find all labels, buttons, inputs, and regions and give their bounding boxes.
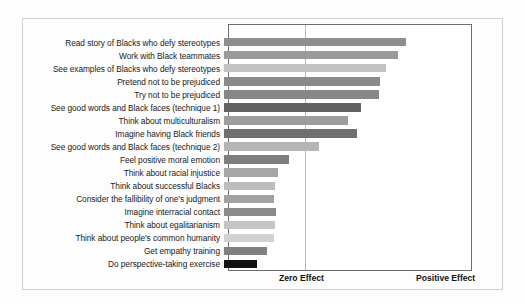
bar-track	[224, 245, 468, 258]
bar-track	[224, 219, 468, 232]
bar	[224, 116, 348, 124]
bar-row: Do perspective-taking exercise	[0, 258, 525, 271]
bar	[224, 234, 274, 242]
bar	[224, 90, 379, 98]
bar-category-label: See good words and Black faces (techniqu…	[0, 142, 224, 152]
bar-category-label: Read story of Blacks who defy stereotype…	[0, 38, 224, 48]
bar-track	[224, 127, 468, 140]
bar	[224, 195, 274, 203]
bar	[224, 247, 267, 255]
bar-row: Get empathy training	[0, 245, 525, 258]
bar	[224, 51, 398, 59]
bar-row: Think about multiculturalism	[0, 114, 525, 127]
bar-row: Try not to be prejudiced	[0, 88, 525, 101]
bar-track	[224, 193, 468, 206]
bar-track	[224, 206, 468, 219]
bar	[224, 77, 380, 85]
bar	[224, 64, 386, 72]
bar-category-label: Work with Black teammates	[0, 51, 224, 61]
bar	[224, 221, 275, 229]
bar-track	[224, 49, 468, 62]
bar-row: Think about successful Blacks	[0, 180, 525, 193]
bar-category-label: Imagine interracial contact	[0, 207, 224, 217]
bar-track	[224, 180, 468, 193]
bar-row: Imagine having Black friends	[0, 127, 525, 140]
bar-row: See good words and Black faces (techniqu…	[0, 101, 525, 114]
bar-category-label: Think about successful Blacks	[0, 181, 224, 191]
bar-category-label: Pretend not to be prejudiced	[0, 77, 224, 87]
bar-category-label: Do perspective-taking exercise	[0, 259, 224, 269]
bar-track	[224, 258, 468, 271]
bar	[224, 155, 289, 163]
bar-track	[224, 36, 468, 49]
bar-row: Read story of Blacks who defy stereotype…	[0, 36, 525, 49]
bar-row: Think about egalitarianism	[0, 219, 525, 232]
bar-row: Pretend not to be prejudiced	[0, 75, 525, 88]
bar	[224, 142, 319, 150]
bar-row: See examples of Blacks who defy stereoty…	[0, 62, 525, 75]
bar-category-label: See examples of Blacks who defy stereoty…	[0, 64, 224, 74]
bar-track	[224, 114, 468, 127]
bar-row: Consider the fallibility of one's judgme…	[0, 193, 525, 206]
axis-tick-label-zero-effect: Zero Effect	[279, 273, 324, 283]
bar-category-label: Think about egalitarianism	[0, 220, 224, 230]
bar-category-label: See good words and Black faces (techniqu…	[0, 103, 224, 113]
bar-row: Imagine interracial contact	[0, 206, 525, 219]
bar-category-label: Think about people's common humanity	[0, 233, 224, 243]
bar-track	[224, 101, 468, 114]
chart-figure: Read story of Blacks who defy stereotype…	[0, 0, 525, 304]
bar-track	[224, 153, 468, 166]
bar-category-label: Try not to be prejudiced	[0, 90, 224, 100]
bar-category-label: Get empathy training	[0, 246, 224, 256]
bar-track	[224, 62, 468, 75]
bar-category-label: Feel positive moral emotion	[0, 155, 224, 165]
bar-rows-container: Read story of Blacks who defy stereotype…	[0, 36, 525, 258]
bar-row: Feel positive moral emotion	[0, 153, 525, 166]
bar-row: Think about racial injustice	[0, 166, 525, 179]
bar-track	[224, 140, 468, 153]
bar-row: Think about people's common humanity	[0, 232, 525, 245]
bar-row: Work with Black teammates	[0, 49, 525, 62]
bar	[224, 182, 275, 190]
bar	[224, 260, 257, 268]
bar-category-label: Think about racial injustice	[0, 168, 224, 178]
bar-track	[224, 88, 468, 101]
bar	[224, 208, 276, 216]
bar-category-label: Think about multiculturalism	[0, 116, 224, 126]
bar-track	[224, 166, 468, 179]
bar	[224, 38, 406, 46]
axis-tick-label-positive-effect: Positive Effect	[416, 273, 475, 283]
bar	[224, 129, 357, 137]
bar-track	[224, 75, 468, 88]
bar-row: See good words and Black faces (techniqu…	[0, 140, 525, 153]
bar	[224, 168, 278, 176]
bar-category-label: Imagine having Black friends	[0, 129, 224, 139]
bar-category-label: Consider the fallibility of one's judgme…	[0, 194, 224, 204]
bar-track	[224, 232, 468, 245]
bar	[224, 103, 361, 111]
